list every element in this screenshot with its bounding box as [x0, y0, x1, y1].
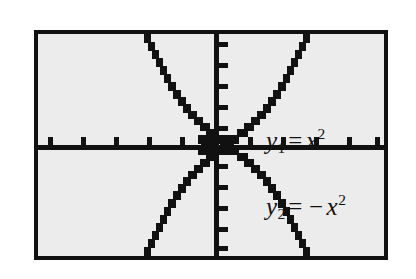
- curve-label-y2-minus-sign: −: [306, 193, 327, 220]
- plot-area: y1=x2 y2=−x2: [38, 34, 384, 256]
- curve-label-y1-base: x: [306, 127, 318, 154]
- curve-label-y2-variable: y: [266, 193, 278, 220]
- y-axis-ticks-below: [219, 164, 228, 251]
- curve-label-y1-equals: =: [285, 127, 306, 154]
- y-axis-ticks-above: [219, 42, 228, 131]
- coordinate-plane: [38, 34, 384, 256]
- graphing-calculator-figure: y1=x2 y2=−x2: [0, 0, 416, 279]
- curve-label-y2-exponent: 2: [338, 191, 346, 208]
- curve-label-y1-exponent: 2: [318, 125, 326, 142]
- x-axis-ticks-left: [48, 137, 185, 145]
- curve-label-y2-base: x: [327, 193, 339, 220]
- curve-label-y1: y1=x2: [266, 126, 325, 156]
- curve-y2-left-branch: [144, 146, 218, 256]
- curve-y1-left-branch: [144, 34, 218, 144]
- curve-label-y2: y2=−x2: [266, 192, 346, 222]
- curve-label-y2-equals: =: [285, 193, 306, 220]
- curve-label-y1-variable: y: [266, 127, 278, 154]
- calculator-screen-frame: y1=x2 y2=−x2: [34, 30, 388, 260]
